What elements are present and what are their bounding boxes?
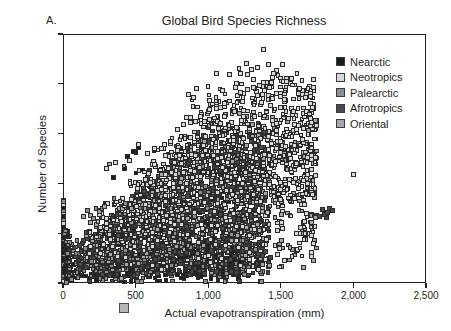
data-point [196, 240, 201, 245]
data-point [96, 219, 101, 224]
data-point [192, 160, 197, 165]
data-point [198, 160, 203, 165]
data-point [256, 139, 261, 144]
data-point [278, 85, 283, 90]
data-point [212, 218, 217, 223]
data-point [223, 215, 228, 220]
legend-item[interactable]: Neotropics [336, 70, 448, 85]
data-point [243, 170, 248, 175]
data-point [201, 249, 206, 254]
data-point [224, 271, 229, 276]
data-point [155, 227, 160, 232]
data-point [300, 78, 305, 83]
data-point [252, 103, 257, 108]
data-point [136, 142, 141, 147]
legend-item-label: Palearctic [350, 87, 398, 99]
data-point [197, 165, 202, 170]
data-point [211, 170, 216, 175]
data-point [295, 71, 300, 76]
data-point [150, 193, 155, 198]
data-point [178, 180, 183, 185]
data-point [172, 222, 177, 227]
data-point [282, 97, 287, 102]
data-point [214, 99, 219, 104]
data-point [247, 233, 252, 238]
data-point [277, 155, 282, 160]
data-point [232, 181, 237, 186]
data-point [269, 141, 274, 146]
data-point [305, 160, 310, 165]
data-point [311, 241, 316, 246]
data-point [297, 96, 302, 101]
x-tick-mark [135, 283, 136, 288]
data-point [88, 230, 93, 235]
data-point [180, 185, 185, 190]
legend-item[interactable]: Nearctic [336, 54, 448, 69]
data-point [205, 228, 210, 233]
data-point [144, 271, 149, 276]
data-point [280, 209, 285, 214]
data-point [79, 256, 84, 261]
data-point [284, 127, 289, 132]
data-point [161, 250, 166, 255]
data-point [164, 178, 169, 183]
data-point [185, 187, 190, 192]
data-point [205, 265, 210, 270]
data-point [129, 197, 134, 202]
data-point [64, 247, 68, 251]
data-point [150, 230, 155, 235]
data-point [152, 146, 157, 151]
data-point [252, 227, 257, 232]
legend-item[interactable]: Palearctic [336, 85, 448, 100]
data-point [190, 175, 195, 180]
data-point [183, 149, 188, 154]
data-point [288, 156, 293, 161]
data-point [84, 265, 89, 270]
data-point [198, 174, 203, 179]
data-point [63, 229, 67, 233]
data-point [286, 196, 291, 201]
data-point [120, 240, 125, 245]
data-point [158, 168, 163, 173]
data-point [215, 223, 220, 228]
data-point [61, 274, 65, 278]
data-point [253, 168, 258, 173]
data-point [219, 256, 224, 261]
data-point [150, 263, 155, 268]
data-point [245, 109, 250, 114]
data-point [264, 242, 269, 247]
data-point [107, 162, 112, 167]
data-point [291, 97, 296, 102]
data-point [310, 192, 315, 197]
data-point [234, 238, 239, 243]
data-point [274, 128, 279, 133]
legend-item[interactable]: Oriental [336, 116, 448, 131]
data-point [234, 270, 239, 275]
data-point [267, 263, 272, 268]
data-point [271, 71, 276, 76]
data-point [176, 227, 181, 232]
data-point [126, 223, 131, 228]
data-point [192, 210, 197, 215]
data-point [220, 165, 225, 170]
legend-item[interactable]: Afrotropics [336, 101, 448, 116]
data-point [78, 262, 83, 267]
data-point [139, 279, 144, 284]
data-point [227, 153, 232, 158]
data-point [203, 134, 208, 139]
data-point [218, 272, 223, 277]
data-point [263, 249, 268, 254]
data-point [245, 87, 250, 92]
data-point [63, 265, 67, 269]
data-point [289, 170, 294, 175]
data-point [159, 181, 164, 186]
data-point [209, 196, 214, 201]
data-point [259, 145, 264, 150]
data-point [257, 129, 262, 134]
data-point [306, 132, 311, 137]
data-point [162, 225, 167, 230]
data-point [205, 153, 210, 158]
data-point [181, 122, 186, 127]
data-point [222, 202, 227, 207]
data-point [167, 247, 172, 252]
